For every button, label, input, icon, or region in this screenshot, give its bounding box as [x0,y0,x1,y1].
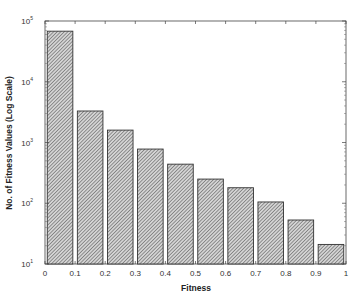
x-tick-label: 0 [43,269,48,278]
bar-0.9-1.0 [318,244,344,264]
bar-0.1-0.2 [77,111,103,264]
x-tick-label: 0.2 [100,269,112,278]
x-tick-label: 0.7 [250,269,262,278]
bar-0.8-0.9 [288,220,314,264]
bar-0.6-0.7 [228,188,254,264]
bar-0-0.1 [47,31,73,264]
x-tick-label: 0.8 [280,269,292,278]
y-tick-label: 105 [21,15,33,26]
x-tick-label: 0.1 [70,269,82,278]
bar-chart: 00.10.20.30.40.50.60.70.80.9110110210310… [0,0,363,305]
bar-0.5-0.6 [198,179,224,264]
x-axis-title: Fitness [181,283,211,293]
bars [47,31,343,264]
y-tick-label: 104 [21,76,33,87]
y-tick-label: 101 [21,258,33,269]
bar-0.7-0.8 [258,202,284,264]
y-tick-label: 103 [21,137,33,148]
x-tick-label: 1 [344,269,349,278]
bar-0.4-0.5 [168,164,194,264]
x-tick-label: 0.4 [160,269,172,278]
x-tick-label: 0.3 [130,269,142,278]
bar-0.2-0.3 [107,130,133,264]
y-axis-title: No. of Fitness Values (Log Scale) [4,76,14,210]
y-tick-label: 102 [21,197,33,208]
x-tick-label: 0.9 [310,269,322,278]
x-tick-label: 0.5 [190,269,202,278]
bar-0.3-0.4 [138,149,164,264]
x-tick-label: 0.6 [220,269,232,278]
